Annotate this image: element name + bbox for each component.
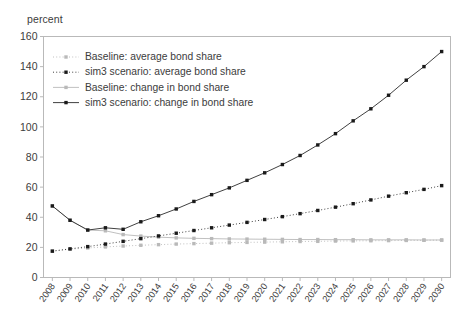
legend-label-1: Baseline: average bond share (85, 51, 222, 62)
data-point (121, 228, 124, 231)
data-point (139, 220, 142, 223)
data-point (387, 194, 390, 197)
x-tick-label: 2029 (409, 281, 429, 303)
legend: Baseline: average bond sharesim3 scenari… (53, 51, 254, 108)
x-tick-label: 2014 (143, 281, 163, 303)
data-point (192, 229, 195, 232)
data-point (86, 228, 89, 231)
data-point (175, 242, 178, 245)
data-point (298, 238, 301, 241)
data-point (263, 171, 266, 174)
x-tick-label: 2009 (55, 281, 75, 303)
data-point (405, 238, 408, 241)
y-tick-label: 60 (26, 181, 38, 193)
x-tick-label: 2012 (108, 281, 128, 303)
x-tick-label: 2019 (232, 281, 252, 303)
x-tick-label: 2020 (250, 281, 270, 303)
data-point (281, 238, 284, 241)
y-tick-label: 140 (20, 60, 38, 72)
y-tick-label: 20 (26, 241, 38, 253)
data-point (422, 65, 425, 68)
data-point (334, 205, 337, 208)
legend-marker-4 (64, 101, 67, 104)
data-point (157, 214, 160, 217)
chart-container: percent 02040608010012014016020082009201… (0, 0, 472, 328)
data-point (157, 243, 160, 246)
legend-label-2: sim3 scenario: average bond share (85, 66, 246, 77)
x-tick-label: 2015 (161, 281, 181, 303)
x-tick-label: 2021 (267, 281, 287, 303)
data-point (104, 242, 107, 245)
y-tick-label: 80 (26, 151, 38, 163)
data-point (175, 207, 178, 210)
data-point (228, 237, 231, 240)
data-point (121, 233, 124, 236)
data-point (351, 202, 354, 205)
data-point (192, 200, 195, 203)
data-point (121, 244, 124, 247)
data-point (316, 238, 319, 241)
x-tick-label: 2017 (197, 281, 217, 303)
data-point (51, 249, 54, 252)
data-point (175, 236, 178, 239)
x-tick-label: 2028 (391, 281, 411, 303)
data-point (334, 238, 337, 241)
data-point (440, 238, 443, 241)
data-point (51, 204, 54, 207)
data-point (139, 244, 142, 247)
x-tick-label: 2027 (373, 281, 393, 303)
data-point (316, 143, 319, 146)
legend-marker-3 (64, 86, 67, 89)
x-tick-label: 2010 (73, 281, 93, 303)
data-point (157, 234, 160, 237)
x-tick-label: 2011 (91, 281, 111, 303)
data-point (369, 198, 372, 201)
data-point (263, 218, 266, 221)
data-point (369, 107, 372, 110)
data-point (68, 247, 71, 250)
data-point (175, 232, 178, 235)
data-point (369, 238, 372, 241)
data-point (245, 237, 248, 240)
x-tick-label: 2025 (338, 281, 358, 303)
data-point (104, 229, 107, 232)
x-tick-label: 2022 (285, 281, 305, 303)
data-point (263, 238, 266, 241)
data-point (351, 119, 354, 122)
data-point (245, 179, 248, 182)
data-point (86, 245, 89, 248)
data-point (121, 240, 124, 243)
data-point (387, 94, 390, 97)
data-point (210, 226, 213, 229)
y-tick-label: 100 (20, 121, 38, 133)
y-axis: 020406080100120140160 (20, 30, 44, 283)
data-point (210, 241, 213, 244)
data-point (405, 78, 408, 81)
data-point (139, 237, 142, 240)
x-tick-label: 2024 (320, 281, 340, 303)
data-point (68, 219, 71, 222)
data-point (351, 238, 354, 241)
data-point (192, 237, 195, 240)
x-tick-label: 2016 (179, 281, 199, 303)
y-tick-label: 160 (20, 30, 38, 42)
data-point (281, 163, 284, 166)
x-axis: 2008200920102011201220132014201520162017… (37, 278, 446, 304)
data-point (210, 193, 213, 196)
data-point (422, 188, 425, 191)
legend-marker-2 (64, 71, 67, 74)
data-point (405, 191, 408, 194)
x-tick-label: 2030 (427, 281, 447, 303)
legend-label-4: sim3 scenario: change in bond share (85, 97, 254, 108)
legend-label-3: Baseline: change in bond share (85, 82, 230, 93)
x-tick-label: 2013 (126, 281, 146, 303)
x-tick-label: 2023 (303, 281, 323, 303)
data-point (192, 242, 195, 245)
data-point (422, 238, 425, 241)
data-point (440, 184, 443, 187)
data-point (104, 226, 107, 229)
data-point (387, 238, 390, 241)
legend-marker-1 (64, 55, 67, 58)
x-tick-label: 2018 (214, 281, 234, 303)
y-tick-label: 40 (26, 211, 38, 223)
